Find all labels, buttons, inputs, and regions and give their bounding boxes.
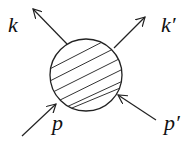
leg-p-arrow — [22, 104, 56, 136]
leg-p-prime-arrow — [118, 95, 156, 120]
leg-k-arrow — [33, 9, 67, 44]
label-p-prime: p′ — [164, 112, 180, 134]
label-p: p — [52, 112, 63, 134]
leg-k-prime-arrow — [114, 17, 145, 48]
hatched-blob — [40, 38, 125, 111]
label-k: k — [8, 14, 18, 36]
label-k-prime: k′ — [161, 14, 176, 36]
